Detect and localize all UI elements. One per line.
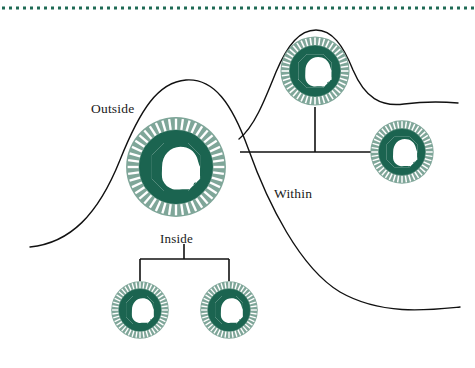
rule-dot: [345, 7, 348, 10]
ring-tick: [398, 122, 399, 129]
ring-tick: [250, 313, 256, 314]
rule-dot: [422, 7, 425, 10]
ring-tick: [181, 204, 183, 215]
ring-tick: [319, 38, 320, 45]
rule-dot: [268, 7, 271, 10]
ring-tick: [213, 172, 224, 174]
rule-dot: [450, 7, 453, 10]
rule-dot: [30, 7, 33, 10]
rule-dot: [72, 7, 75, 10]
rule-dot: [114, 7, 117, 10]
ring-tick: [250, 306, 256, 307]
rule-dot: [352, 7, 355, 10]
ring-tick: [143, 282, 144, 288]
ring-tick: [128, 172, 139, 174]
rule-dot: [212, 7, 215, 10]
label-outside: Outside: [91, 101, 134, 117]
rule-dot: [191, 7, 194, 10]
ring-tick: [341, 75, 348, 76]
diagram-svg: [0, 0, 475, 368]
rule-dot: [261, 7, 264, 10]
rule-dot: [170, 7, 173, 10]
rule-dot: [254, 7, 257, 10]
ring-tick: [426, 148, 433, 149]
head-node-inside-right: [200, 281, 258, 339]
rule-dot: [198, 7, 201, 10]
rule-dot: [247, 7, 250, 10]
rule-dot: [184, 7, 187, 10]
rule-dot: [177, 7, 180, 10]
rule-dot: [436, 7, 439, 10]
ring-tick: [405, 122, 406, 129]
rule-dot: [303, 7, 306, 10]
rule-dot: [324, 7, 327, 10]
ring-tick: [398, 176, 399, 183]
head-node-outside: [126, 117, 226, 217]
rule-dot: [233, 7, 236, 10]
rule-dot: [394, 7, 397, 10]
ring-tick: [225, 331, 226, 337]
rule-dot: [338, 7, 341, 10]
rule-dot: [380, 7, 383, 10]
rule-dot: [289, 7, 292, 10]
rule-dot: [100, 7, 103, 10]
ring-tick: [143, 331, 144, 337]
label-within: Within: [274, 186, 312, 202]
rule-dot: [16, 7, 19, 10]
rule-dot: [240, 7, 243, 10]
ring-tick: [232, 331, 233, 337]
rule-dot: [415, 7, 418, 10]
rule-dot: [2, 7, 5, 10]
ring-tick: [181, 119, 183, 130]
rule-dot: [44, 7, 47, 10]
label-inside: Inside: [160, 231, 193, 247]
rule-dot: [58, 7, 61, 10]
rule-dot: [149, 7, 152, 10]
ring-tick: [136, 282, 137, 288]
head-node-inside-left: [111, 281, 169, 339]
ring-tick: [225, 282, 226, 288]
rule-dot: [37, 7, 40, 10]
rule-dot: [429, 7, 432, 10]
top-dotted-rule: [2, 7, 474, 10]
rule-dot: [401, 7, 404, 10]
rule-dot: [331, 7, 334, 10]
ring-tick: [310, 97, 311, 104]
ring-tick: [232, 282, 233, 288]
rule-dot: [359, 7, 362, 10]
ring-tick: [169, 204, 171, 215]
ring-tick: [341, 66, 348, 67]
ring-tick: [128, 160, 139, 162]
ring-tick: [372, 155, 379, 156]
ring-tick: [405, 176, 406, 183]
ring-tick: [161, 313, 167, 314]
ring-tick: [310, 38, 311, 45]
rule-dot: [457, 7, 460, 10]
ring-tick: [169, 119, 171, 130]
ring-tick: [112, 306, 118, 307]
rule-dot: [310, 7, 313, 10]
ring-tick: [319, 97, 320, 104]
rule-dot: [121, 7, 124, 10]
rule-dot: [135, 7, 138, 10]
diagram-canvas: Outside Within Inside: [0, 0, 475, 368]
ring-tick: [201, 313, 207, 314]
small-bell-curve: [239, 30, 458, 139]
rule-dot: [23, 7, 26, 10]
rule-dot: [387, 7, 390, 10]
rule-dot: [219, 7, 222, 10]
rule-dot: [282, 7, 285, 10]
rule-dot: [296, 7, 299, 10]
rule-dot: [443, 7, 446, 10]
rule-dot: [142, 7, 145, 10]
rule-dot: [275, 7, 278, 10]
rule-dot: [471, 7, 474, 10]
rule-dot: [373, 7, 376, 10]
ring-tick: [426, 155, 433, 156]
head-node-within-right: [370, 120, 433, 183]
rule-dot: [464, 7, 467, 10]
rule-dot: [317, 7, 320, 10]
rule-dot: [107, 7, 110, 10]
ring-tick: [282, 75, 289, 76]
rule-dot: [156, 7, 159, 10]
